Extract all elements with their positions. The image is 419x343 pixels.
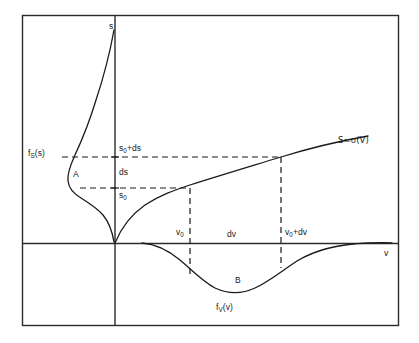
region-label-a: A (73, 170, 79, 179)
figure-container: s v fS(s) fV(v) S=σ(V) s0+ds ds s0 v0 dv… (0, 0, 419, 343)
s0-plus-ds-subscript: 0 (123, 147, 127, 154)
v0-plus-dv-subscript: 0 (289, 231, 293, 238)
interval-label-dv: dv (227, 230, 236, 239)
transfer-curve (115, 136, 368, 243)
v0-subscript: 0 (180, 231, 184, 238)
transfer-curve-label: S=σ(V) (338, 136, 369, 145)
density-s-subscript: S (30, 152, 34, 159)
density-s-label: fS(s) (28, 149, 45, 158)
density-v-curve (142, 243, 392, 293)
density-s-curve (68, 30, 114, 242)
point-label-v0-plus-dv: v0+dv (285, 228, 307, 237)
region-label-b: B (235, 276, 241, 285)
s0-subscript: 0 (123, 194, 127, 201)
axis-label-s: s (109, 22, 113, 31)
level-label-s0-plus-ds: s0+ds (119, 144, 141, 153)
density-v-label: fV(v) (216, 303, 233, 312)
axis-label-v: v (384, 249, 388, 258)
figure-canvas (0, 0, 419, 343)
point-label-v0: v0 (176, 228, 184, 237)
density-v-subscript: V (218, 306, 222, 313)
level-label-s0: s0 (119, 191, 127, 200)
interval-label-ds: ds (119, 168, 128, 177)
